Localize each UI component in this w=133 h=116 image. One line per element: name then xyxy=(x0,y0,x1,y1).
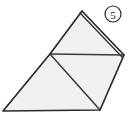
tangram-figure: 5 xyxy=(0,0,133,116)
label-number-text: 5 xyxy=(110,9,116,21)
circled-number-label: 5 xyxy=(105,6,121,22)
figure-canvas: 5 xyxy=(0,0,133,116)
